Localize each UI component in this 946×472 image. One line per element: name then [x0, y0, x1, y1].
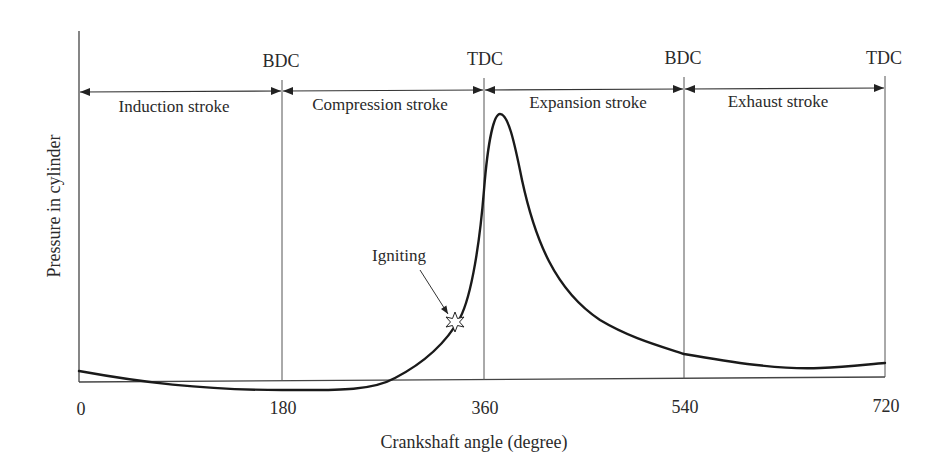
- dc-label-tdc-360: TDC: [467, 49, 503, 69]
- x-tick-0: 0: [77, 399, 86, 419]
- stroke-label-induction: Induction stroke: [119, 97, 230, 116]
- pressure-curve: [79, 114, 885, 390]
- dc-label-tdc-720: TDC: [866, 48, 902, 68]
- exhaust-stroke-arrow: [685, 88, 884, 89]
- stroke-label-exhaust: Exhaust stroke: [728, 92, 829, 111]
- x-tick-180: 180: [270, 398, 297, 418]
- x-axis-title: Crankshaft angle (degree): [381, 432, 568, 453]
- dc-label-bdc-180: BDC: [262, 51, 299, 71]
- compression-stroke-arrow: [283, 90, 483, 91]
- y-axis-title: Pressure in cylinder: [44, 135, 64, 278]
- x-tick-540: 540: [672, 397, 699, 417]
- igniting-label: Igniting: [372, 246, 426, 265]
- stroke-label-expansion: Expansion stroke: [529, 93, 647, 112]
- stroke-label-compression: Compression stroke: [312, 95, 448, 114]
- igniting-arrow: [420, 270, 448, 314]
- expansion-stroke-arrow: [485, 89, 683, 90]
- pressure-crank-angle-chart: BDC TDC BDC TDC Induction stroke Compres…: [0, 0, 946, 472]
- x-axis: [79, 377, 885, 382]
- induction-stroke-arrow: [80, 91, 281, 92]
- x-tick-360: 360: [472, 398, 499, 418]
- x-tick-720: 720: [873, 396, 900, 416]
- dc-label-bdc-540: BDC: [664, 48, 701, 68]
